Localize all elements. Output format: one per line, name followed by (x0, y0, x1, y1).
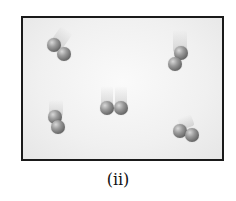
atom (51, 120, 65, 134)
figure-label: (ii) (0, 170, 236, 189)
gas-container-box (21, 16, 224, 161)
atom (168, 57, 182, 71)
atom (57, 47, 71, 61)
atom (185, 128, 199, 142)
atom (114, 101, 128, 115)
atom (100, 101, 114, 115)
